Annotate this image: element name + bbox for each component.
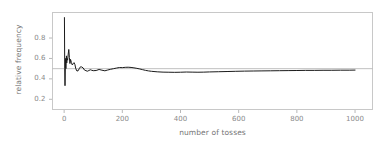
y-tick-label: 0.2 (24, 95, 46, 103)
x-tick-label: 400 (166, 115, 196, 123)
x-axis-title: number of tosses (52, 128, 373, 137)
x-tick-label: 600 (224, 115, 254, 123)
y-tick-label: 0.8 (24, 34, 46, 42)
x-tick-label: 0 (49, 115, 79, 123)
y-tick-label: 0.6 (24, 54, 46, 62)
x-tick-label: 800 (282, 115, 312, 123)
x-tick-label: 1000 (340, 115, 370, 123)
y-axis-title: relative frequency (14, 11, 23, 109)
x-tick-label: 200 (107, 115, 137, 123)
chart-figure: relative frequency number of tosses 0.20… (0, 0, 391, 142)
y-tick-label: 0.4 (24, 74, 46, 82)
